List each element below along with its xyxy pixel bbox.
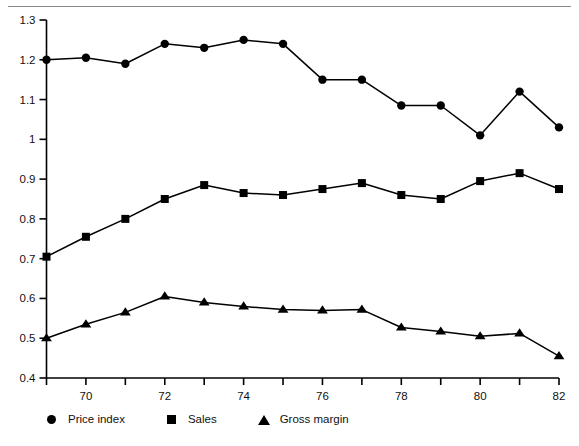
legend-item-gross-margin: Gross margin: [257, 412, 349, 426]
y-tick-label: 1: [29, 133, 35, 145]
data-point-marker: [82, 54, 90, 62]
data-point-marker: [318, 75, 326, 83]
data-point-marker: [476, 131, 484, 139]
series-gross-margin: [41, 291, 564, 359]
x-tick-label: 74: [237, 390, 250, 402]
y-axis-ticks: 0.40.50.60.70.80.911.11.21.3: [20, 14, 47, 384]
data-point-marker: [358, 75, 366, 83]
data-point-marker: [516, 169, 524, 177]
data-point-marker: [159, 291, 170, 299]
legend-label-price-index: Price index: [68, 413, 125, 425]
data-point-marker: [200, 44, 208, 52]
data-point-marker: [555, 123, 563, 131]
data-point-marker: [43, 253, 51, 261]
data-point-marker: [121, 215, 129, 223]
triangle-marker-icon: [257, 412, 271, 426]
y-tick-label: 0.7: [20, 253, 36, 265]
chart-axes: [47, 20, 560, 378]
data-point-marker: [397, 101, 405, 109]
y-tick-label: 0.4: [20, 372, 37, 384]
legend-item-price-index: Price index: [45, 412, 125, 426]
circle-marker-icon: [45, 412, 59, 426]
legend-label-gross-margin: Gross margin: [280, 413, 349, 425]
data-point-marker: [200, 181, 208, 189]
data-point-marker: [437, 101, 445, 109]
data-point-marker: [317, 305, 328, 313]
y-tick-label: 0.5: [20, 332, 36, 344]
y-tick-label: 1.3: [20, 14, 36, 26]
data-point-marker: [161, 195, 169, 203]
square-marker-icon: [165, 412, 179, 426]
data-point-marker: [279, 191, 287, 199]
data-point-marker: [161, 40, 169, 48]
data-point-marker: [356, 305, 367, 313]
data-point-marker: [279, 40, 287, 48]
data-point-marker: [42, 56, 50, 64]
chart-series: [41, 36, 564, 360]
legend-item-sales: Sales: [165, 412, 217, 426]
chart-legend: Price index Sales Gross margin: [45, 412, 389, 426]
x-tick-label: 80: [474, 390, 487, 402]
x-tick-label: 70: [80, 390, 93, 402]
y-tick-label: 0.8: [20, 213, 36, 225]
y-tick-label: 0.6: [20, 292, 36, 304]
data-point-marker: [239, 36, 247, 44]
data-point-marker: [555, 185, 563, 193]
data-point-marker: [476, 177, 484, 185]
legend-label-sales: Sales: [188, 413, 217, 425]
data-point-marker: [397, 191, 405, 199]
data-point-marker: [515, 87, 523, 95]
series-price-index: [42, 36, 563, 140]
y-tick-label: 1.1: [20, 94, 36, 106]
data-point-marker: [121, 60, 129, 68]
data-point-marker: [240, 189, 248, 197]
data-point-marker: [82, 233, 90, 241]
x-tick-label: 78: [395, 390, 408, 402]
data-point-marker: [318, 185, 326, 193]
x-axis-ticks: 70727476788082: [47, 378, 566, 402]
chart-figure: 0.40.50.60.70.80.911.11.21.3 70727476788…: [0, 0, 579, 446]
y-tick-label: 1.2: [20, 54, 36, 66]
data-point-marker: [358, 179, 366, 187]
data-point-marker: [437, 195, 445, 203]
line-chart-plot: 0.40.50.60.70.80.911.11.21.3 70727476788…: [0, 0, 579, 446]
data-point-marker: [514, 328, 525, 336]
x-tick-label: 82: [553, 390, 566, 402]
x-tick-label: 76: [316, 390, 329, 402]
data-point-marker: [554, 351, 565, 359]
y-tick-label: 0.9: [20, 173, 36, 185]
series-sales: [43, 169, 564, 261]
x-tick-label: 72: [158, 390, 171, 402]
